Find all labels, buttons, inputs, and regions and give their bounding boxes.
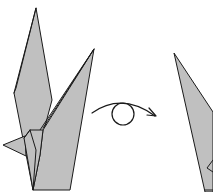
crane-back-figure [174,53,213,192]
curved-arrow-icon [92,103,155,116]
origami-diagram [0,0,213,192]
circle-icon [112,103,134,125]
crane-front-figure [3,8,94,190]
back-point [174,53,213,192]
side-flap [3,136,26,156]
turn-over-symbol [92,103,156,125]
